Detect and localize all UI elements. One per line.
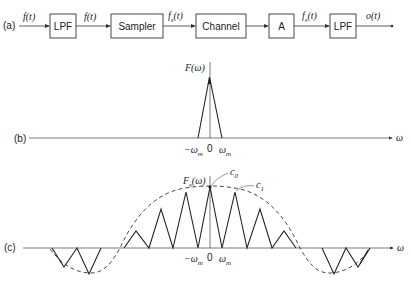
replica-edge bbox=[360, 250, 368, 264]
amplifier-block-label: A bbox=[278, 21, 285, 32]
c0-leader bbox=[211, 173, 228, 186]
lpf-block-2-label: LPF bbox=[334, 21, 352, 32]
peak-marker bbox=[208, 77, 212, 84]
spectrum-c: (c) ω Fs(ω) c0 c1 −ωm 0 ωm bbox=[4, 166, 404, 274]
tick-pos-omega-m: ωm bbox=[219, 253, 231, 267]
signal-label-sampled: fs(t) bbox=[168, 10, 184, 24]
block-diagram: (a) f(t) LPF f(t) Sampler fs(t) Channel … bbox=[3, 10, 393, 38]
signal-label-filtered: f(t) bbox=[84, 11, 97, 23]
c0-label: c0 bbox=[230, 166, 238, 180]
tick-zero: 0 bbox=[207, 143, 213, 154]
panel-label-b: (b) bbox=[14, 133, 26, 144]
f-omega-label: F(ω) bbox=[184, 62, 205, 74]
c1-leader bbox=[236, 186, 254, 191]
negative-replicas-left bbox=[52, 248, 101, 274]
panel-label-c: (c) bbox=[4, 242, 16, 253]
lpf-block-1-label: LPF bbox=[54, 21, 72, 32]
signal-label-amplified: fs(t) bbox=[302, 10, 318, 24]
negative-replicas-right bbox=[322, 248, 370, 274]
sampling-figure: (a) f(t) LPF f(t) Sampler fs(t) Channel … bbox=[0, 0, 412, 290]
sampler-block-label: Sampler bbox=[118, 21, 156, 32]
c1-label: c1 bbox=[256, 179, 264, 193]
tick-neg-omega-m: −ωm bbox=[184, 253, 203, 267]
panel-label-a: (a) bbox=[3, 20, 15, 31]
tick-pos-omega-m: ωm bbox=[219, 144, 231, 158]
omega-axis-label: ω bbox=[396, 132, 403, 143]
channel-block-label: Channel bbox=[202, 21, 239, 32]
signal-label-output: o(t) bbox=[366, 10, 381, 22]
omega-axis-label: ω bbox=[397, 242, 404, 253]
spectrum-b: (b) ω F(ω) −ωm 0 ωm bbox=[14, 62, 403, 158]
tick-neg-omega-m: −ωm bbox=[184, 144, 203, 158]
tick-zero: 0 bbox=[207, 252, 213, 263]
output-terminal-icon bbox=[391, 25, 394, 28]
signal-label-input: f(t) bbox=[23, 11, 36, 23]
